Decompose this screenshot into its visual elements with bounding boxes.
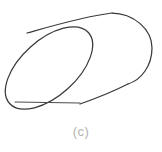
- figure-panel: (c): [0, 0, 162, 152]
- figure-caption: (c): [0, 124, 162, 139]
